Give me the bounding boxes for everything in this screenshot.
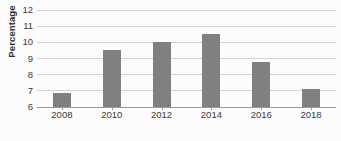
gridline <box>37 26 336 27</box>
bar <box>302 89 320 107</box>
bar <box>153 42 171 107</box>
gridline <box>37 58 336 59</box>
bar <box>202 34 220 107</box>
y-axis-tick-label: 10 <box>16 38 33 48</box>
gridline <box>37 90 336 91</box>
y-axis-tick-labels: 6789101112 <box>16 0 33 141</box>
x-axis-tick-label: 2018 <box>291 110 331 120</box>
x-axis-tick-label: 2012 <box>142 110 182 120</box>
y-axis-title: Percentage <box>6 0 17 68</box>
x-axis-line <box>37 107 336 108</box>
gridline <box>37 42 336 43</box>
x-axis-tick-label: 2016 <box>241 110 281 120</box>
bar <box>252 62 270 107</box>
y-axis-tick-label: 12 <box>16 5 33 15</box>
y-axis-tick-label: 6 <box>16 102 33 112</box>
bar <box>53 93 71 107</box>
bar-chart: Percentage 6789101112 200820102012201420… <box>0 0 341 141</box>
y-axis-tick-label: 7 <box>16 86 33 96</box>
y-axis-tick-label: 9 <box>16 54 33 64</box>
y-axis-tick-label: 8 <box>16 70 33 80</box>
y-axis-tick-label: 11 <box>16 21 33 31</box>
x-axis-tick-label: 2014 <box>191 110 231 120</box>
gridline <box>37 10 336 11</box>
x-axis-tick-label: 2008 <box>42 110 82 120</box>
bar <box>103 50 121 107</box>
x-axis-tick-labels: 200820102012201420162018 <box>37 110 336 128</box>
gridline <box>37 74 336 75</box>
x-axis-tick-label: 2010 <box>92 110 132 120</box>
